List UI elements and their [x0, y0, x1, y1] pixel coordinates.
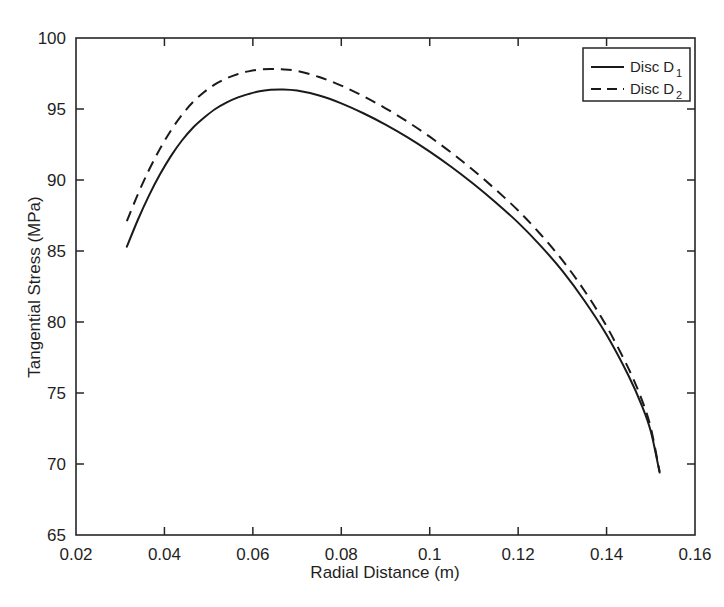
x-tick-label-3: 0.08 — [325, 545, 358, 564]
plot-frame — [76, 38, 695, 535]
legend-label-disc-d1: Disc D — [630, 58, 674, 75]
x-axis-title: Radial Distance (m) — [310, 563, 459, 582]
tangential-stress-line-chart: 0.020.040.060.080.10.120.140.16 65707580… — [0, 0, 724, 607]
y-axis-tick-marks — [76, 109, 695, 464]
y-axis-title: Tangential Stress (MPa) — [25, 196, 44, 377]
x-tick-label-4: 0.1 — [418, 545, 442, 564]
legend-label-disc-d1-subscript: 1 — [676, 67, 682, 79]
y-tick-label-5: 90 — [47, 171, 66, 190]
y-tick-label-6: 95 — [47, 100, 66, 119]
x-axis-tick-labels: 0.020.040.060.080.10.120.140.16 — [59, 545, 711, 564]
x-tick-label-0: 0.02 — [59, 545, 92, 564]
x-tick-label-6: 0.14 — [590, 545, 623, 564]
x-tick-label-7: 0.16 — [678, 545, 711, 564]
data-series-group — [127, 69, 660, 473]
y-tick-label-2: 75 — [47, 384, 66, 403]
x-tick-label-5: 0.12 — [502, 545, 535, 564]
x-tick-label-2: 0.06 — [236, 545, 269, 564]
series-line-disc-d1 — [127, 89, 660, 472]
y-tick-label-4: 85 — [47, 242, 66, 261]
y-tick-label-0: 65 — [47, 526, 66, 545]
y-tick-label-7: 100 — [38, 29, 66, 48]
y-tick-label-3: 80 — [47, 313, 66, 332]
legend: Disc D 1 Disc D 2 — [583, 48, 690, 101]
legend-label-disc-d2-subscript: 2 — [676, 89, 682, 101]
y-tick-label-1: 70 — [47, 455, 66, 474]
x-tick-label-1: 0.04 — [148, 545, 181, 564]
legend-label-disc-d2: Disc D — [630, 80, 674, 97]
x-axis-tick-marks — [164, 38, 606, 535]
figure-container: 0.020.040.060.080.10.120.140.16 65707580… — [0, 0, 724, 607]
